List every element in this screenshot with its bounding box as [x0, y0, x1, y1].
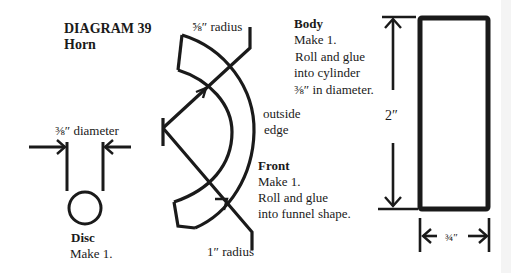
- body-line-2: Roll and glue: [295, 49, 365, 65]
- front-bottom-end: [174, 202, 195, 228]
- disc-diameter-label: ⅜″ diameter: [55, 123, 119, 139]
- front-top-end: [178, 35, 182, 70]
- body-line-4: ⅜″ in diameter.: [294, 82, 374, 98]
- outside-edge-label-1: outside: [263, 106, 301, 122]
- body-height-label: 2″: [385, 108, 398, 124]
- disc-circle: [69, 192, 101, 224]
- disc-title: Disc: [71, 230, 95, 246]
- body-line-3: into cylinder: [294, 65, 360, 81]
- front-line-1: Make 1.: [258, 174, 301, 190]
- front-line-3: into funnel shape.: [258, 206, 351, 222]
- diagram-subtitle: Horn: [64, 37, 96, 53]
- front-line-2: Roll and glue: [258, 190, 328, 206]
- body-line-1: Make 1.: [294, 32, 337, 48]
- body-title: Body: [294, 16, 323, 32]
- outer-radius-label: 1″ radius: [207, 244, 254, 260]
- disc-line-1: Make 1.: [70, 246, 113, 262]
- body-width-label: ¾″: [445, 229, 458, 245]
- inner-radius-label: ⅝″ radius: [192, 19, 242, 35]
- body-rectangle: [420, 18, 488, 209]
- front-title: Front: [258, 158, 290, 174]
- diagram-title: DIAGRAM 39: [64, 21, 152, 37]
- outside-edge-label-2: edge: [264, 122, 289, 138]
